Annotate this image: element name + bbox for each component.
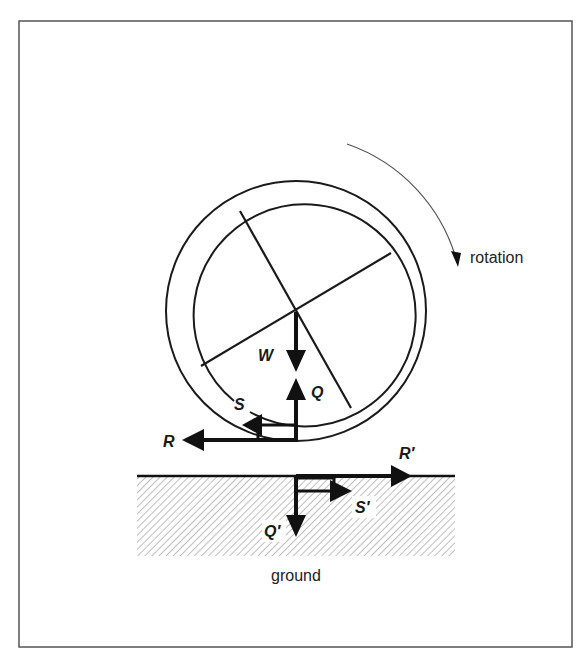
rotation-label: rotation	[470, 249, 523, 266]
force-s-label: S	[234, 396, 245, 413]
force-q-arrow	[286, 378, 306, 441]
force-q-prime-label: Q′	[264, 523, 281, 540]
force-r-label: R	[163, 433, 175, 450]
force-s-prime-label: S′	[355, 499, 371, 516]
force-s-arrow	[242, 414, 296, 439]
force-r-arrow	[182, 429, 298, 451]
force-r-prime-label: R′	[399, 445, 416, 462]
rotation-arrow-icon	[347, 144, 461, 267]
ground-label: ground	[271, 567, 321, 584]
wheel-inner-rim	[194, 204, 416, 426]
force-q-label: Q	[311, 384, 324, 401]
force-w-label: W	[258, 347, 275, 364]
wheel-force-diagram: rotation W Q S R R′	[0, 0, 584, 659]
